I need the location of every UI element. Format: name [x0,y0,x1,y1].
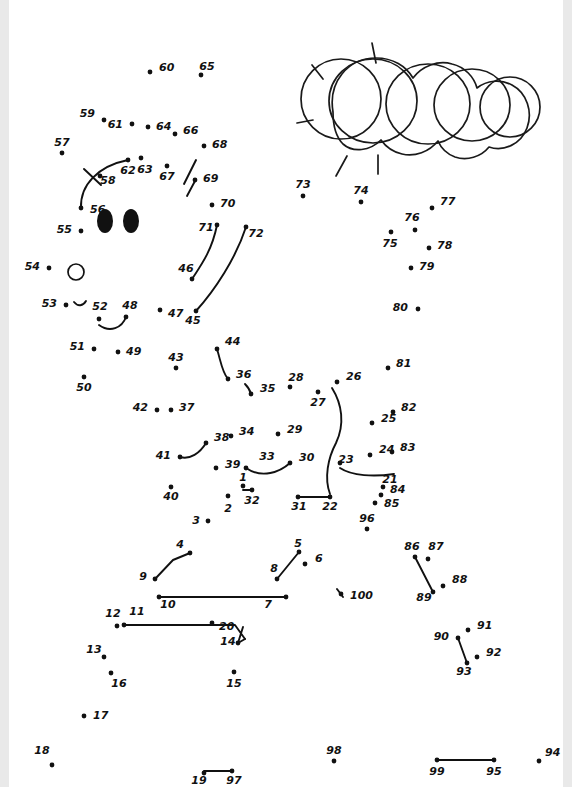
dot-31 [296,495,301,500]
dot-label-6: 6 [315,552,323,565]
dot-label-25: 25 [381,412,397,425]
dot-71 [215,223,220,228]
dot-label-40: 40 [162,490,179,503]
dot-label-76: 76 [404,211,420,224]
dot-label-97: 97 [226,774,242,787]
dot-label-22: 22 [322,500,338,513]
dot-40 [169,485,174,490]
dot-label-53: 53 [42,297,58,310]
dot-label-34: 34 [239,425,254,438]
dot-label-72: 72 [248,227,264,240]
dot-label-31: 31 [291,500,306,513]
dot-91 [466,628,471,633]
dot-22 [328,495,333,500]
dot-label-43: 43 [167,351,184,364]
dot-11 [122,623,127,628]
dot-label-19: 19 [191,774,207,787]
dot-79 [409,266,414,271]
dot-label-18: 18 [34,744,50,757]
dot-35 [249,392,254,397]
seg-8-5 [277,552,299,579]
dot-88 [441,584,446,589]
dot-label-92: 92 [486,646,502,659]
dot-61 [130,122,135,127]
dot-label-82: 82 [401,401,417,414]
dot-100 [339,592,344,597]
dot-label-86: 86 [404,540,420,553]
dot-label-65: 65 [199,60,215,73]
dot-label-35: 35 [260,382,276,395]
seg-86-89 [415,557,433,592]
curve-69-lower [187,181,195,196]
dot-label-87: 87 [428,540,444,553]
dot-label-63: 63 [137,163,153,176]
dot-label-16: 16 [111,677,127,690]
curve-26-22 [327,388,341,494]
dot-4 [188,551,193,556]
dot-label-30: 30 [299,451,315,464]
cloud-icon [329,58,540,159]
dot-label-73: 73 [295,178,311,191]
dot-49 [116,350,121,355]
dot-label-79: 79 [419,260,435,273]
dot-label-10: 10 [160,598,176,611]
dot-43 [174,366,179,371]
dot-55 [79,229,84,234]
dot-29 [276,432,281,437]
dot-17 [82,714,87,719]
dot-15 [232,670,237,675]
dot-label-50: 50 [76,381,92,394]
dot-24 [368,453,373,458]
dot-label-70: 70 [220,197,236,210]
dot-label-61: 61 [108,118,123,131]
ray-lower-left [336,156,347,176]
dot-label-77: 77 [440,195,456,208]
dot-label-49: 49 [125,345,142,358]
dot-label-68: 68 [212,138,228,151]
dot-5 [297,550,302,555]
curve-52-48 [99,317,126,329]
dot-label-39: 39 [225,458,241,471]
dot-label-75: 75 [382,237,398,250]
dot-3 [206,519,211,524]
curve-33-30 [246,463,290,474]
dot-32 [250,488,255,493]
dot-label-29: 29 [287,423,303,436]
dot-label-42: 42 [132,401,149,414]
ray-left [297,120,313,123]
dot-12 [115,624,120,629]
dot-44 [215,347,220,352]
dot-2 [226,494,231,499]
dot-18 [50,763,55,768]
dot-label-58: 58 [100,174,116,187]
dot-59 [102,118,107,123]
dot-label-100: 100 [350,589,373,602]
dot-label-93: 93 [456,665,472,678]
dot-label-71: 71 [198,221,213,234]
dot-33 [244,466,249,471]
dot-20 [210,621,215,626]
dot-1 [241,484,246,489]
dot-73 [301,194,306,199]
dot-67 [165,164,170,169]
dot-69 [193,178,198,183]
dot-label-5: 5 [294,537,302,550]
dot-label-98: 98 [326,744,342,757]
ray-top [372,43,376,63]
dot-97 [230,769,235,774]
dot-label-99: 99 [429,765,445,778]
dot-label-41: 41 [155,449,171,462]
dot-96 [365,527,370,532]
dot-90 [456,636,461,641]
dot-46 [190,277,195,282]
dot-86 [413,555,418,560]
dot-label-27: 27 [310,396,326,409]
dot-54 [47,266,52,271]
dot-60 [148,70,153,75]
dot-62 [126,158,131,163]
dot-label-54: 54 [25,260,40,273]
dot-label-28: 28 [288,371,304,384]
dot-25 [370,421,375,426]
dot-label-48: 48 [121,299,138,312]
dot-label-60: 60 [159,61,175,74]
